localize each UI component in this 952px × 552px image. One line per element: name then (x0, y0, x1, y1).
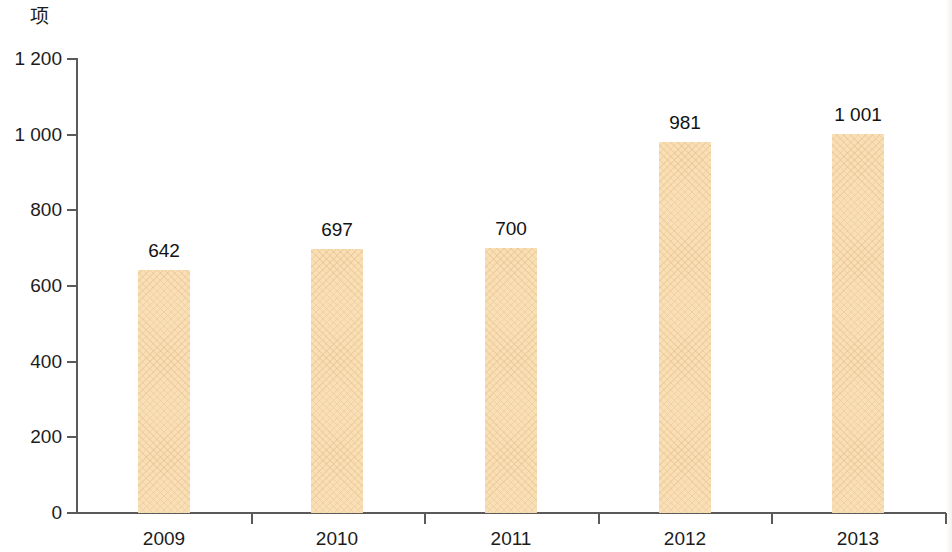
bar-value-label: 697 (267, 220, 407, 240)
x-axis-tick (771, 513, 773, 524)
y-axis-tick-label: 200 (0, 427, 62, 446)
bar (832, 134, 884, 513)
x-axis-tick (945, 513, 947, 524)
y-axis-tick (67, 512, 77, 514)
bar (485, 248, 537, 513)
bar (138, 270, 190, 513)
bar (659, 142, 711, 513)
bar-chart: 项 1 2001 0008006004002000 6426977009811 … (0, 0, 952, 552)
x-axis-category-label: 2011 (451, 528, 571, 550)
x-axis-tick (598, 513, 600, 524)
x-axis-category-label: 2009 (104, 528, 224, 550)
x-axis-tick (251, 513, 253, 524)
x-axis-tick (424, 513, 426, 524)
y-axis-tick-label: 600 (0, 276, 62, 295)
y-axis-unit-label: 项 (30, 3, 49, 29)
x-axis-category-label: 2010 (277, 528, 397, 550)
y-axis-tick (67, 436, 77, 438)
y-axis-tick (67, 361, 77, 363)
bar (311, 249, 363, 513)
plot-area: 项 1 2001 0008006004002000 6426977009811 … (0, 0, 952, 552)
x-axis-category-label: 2012 (625, 528, 745, 550)
bar-value-label: 1 001 (788, 105, 928, 125)
y-axis-tick-label: 800 (0, 200, 62, 219)
bar-value-label: 700 (441, 219, 581, 239)
bar-value-label: 981 (615, 113, 755, 133)
x-axis-category-label: 2013 (798, 528, 918, 550)
y-axis-tick (67, 209, 77, 211)
y-axis-tick (67, 285, 77, 287)
y-axis-tick (67, 134, 77, 136)
bar-value-label: 642 (94, 241, 234, 261)
y-axis-tick-label: 1 200 (0, 49, 62, 68)
y-axis-tick-label: 1 000 (0, 125, 62, 144)
y-axis-tick-label: 400 (0, 352, 62, 371)
y-axis-tick (67, 58, 77, 60)
y-axis-tick-label: 0 (0, 503, 62, 522)
